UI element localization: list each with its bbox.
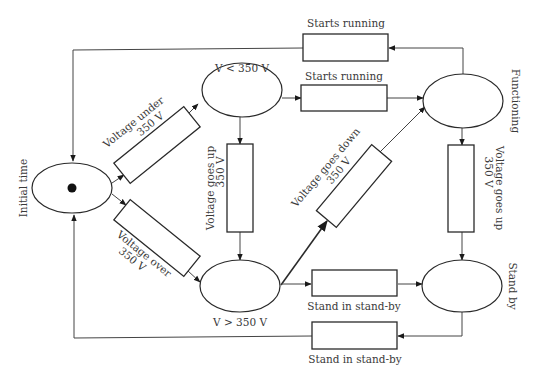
place-functioning: Functioning — [423, 69, 522, 133]
label-goes-up-right-line2: 350 V — [483, 157, 495, 188]
label-stand-in-standby-1: Stand in stand-by — [307, 300, 401, 312]
label-stand-by: Stand by — [507, 262, 519, 309]
transition-starts-running-top: Starts running — [303, 17, 388, 61]
arc-initial-to-voltage-over — [112, 194, 126, 205]
place-v-over-350: V > 350 V — [200, 260, 280, 328]
transition-voltage-goes-up-right: Voltage goes up 350 V — [448, 145, 506, 232]
transition-voltage-goes-down: Voltage goes down 350 V — [288, 125, 394, 236]
place-initial-time: Initial time — [17, 159, 112, 218]
arc-voltage-under-to-v-under — [188, 104, 198, 114]
transition-voltage-over: Voltage over — [106, 200, 200, 287]
label-goes-up-left-line2: 350 V — [214, 156, 226, 187]
arc-goes-down-to-functioning — [380, 107, 425, 152]
place-stand-by: Stand by — [422, 260, 519, 312]
transition-voltage-goes-up-left: Voltage goes up 350 V — [204, 144, 253, 232]
label-initial-time: Initial time — [17, 159, 29, 218]
transition-stand-in-standby-2: Stand in stand-by — [308, 322, 402, 365]
place-v-under-350: V < 350 V — [202, 62, 282, 117]
label-starts-running-mid: Starts running — [305, 70, 383, 82]
arc-voltage-over-to-v-over — [188, 271, 200, 282]
transition-starts-running-mid: Starts running — [301, 70, 387, 111]
transition-stand-in-standby-1: Stand in stand-by — [307, 270, 401, 312]
label-functioning: Functioning — [510, 69, 522, 133]
label-v-over-350: V > 350 V — [212, 316, 267, 328]
transition-voltage-under: Voltage under 350 V — [97, 86, 200, 183]
label-stand-in-standby-2: Stand in stand-by — [308, 353, 402, 365]
arc-initial-to-voltage-under — [112, 175, 124, 183]
token-dot — [68, 184, 77, 193]
label-starts-running-top: Starts running — [307, 17, 385, 29]
petri-net-diagram: Initial time V < 350 V V > 350 V Functio… — [0, 0, 535, 384]
label-v-under-350: V < 350 V — [214, 62, 269, 74]
arc-functioning-to-top-transition — [389, 48, 463, 74]
arc-standby-to-lower-transition — [398, 312, 462, 336]
